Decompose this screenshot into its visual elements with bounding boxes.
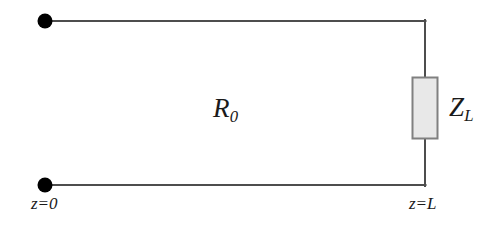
load-impedance-subscript: L bbox=[464, 106, 473, 125]
transmission-line-diagram: R0 ZL z=0 z=L bbox=[0, 0, 500, 234]
terminal-dot-icon-top bbox=[38, 14, 53, 29]
terminal-dot-icon-bottom bbox=[38, 178, 53, 193]
load-impedance-label: ZL bbox=[449, 92, 473, 123]
line-impedance-label: R0 bbox=[213, 93, 238, 124]
line-impedance-symbol: R bbox=[213, 93, 230, 123]
load-impedance-symbol: Z bbox=[449, 92, 464, 122]
line-impedance-subscript: 0 bbox=[230, 107, 238, 126]
impedance-box-icon bbox=[413, 78, 438, 139]
position-end-label: z=L bbox=[409, 194, 437, 214]
position-start-label: z=0 bbox=[31, 194, 58, 214]
